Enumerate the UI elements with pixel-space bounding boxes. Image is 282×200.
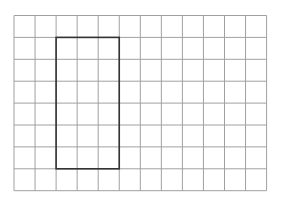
grid-diagram [0, 0, 282, 200]
grid-lines [14, 16, 267, 191]
